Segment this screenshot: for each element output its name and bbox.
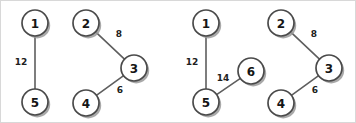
graph-node-right-graph-1: 1 xyxy=(193,10,221,38)
edge-weight-label: 14 xyxy=(217,73,230,83)
edge-weight-label: 6 xyxy=(312,85,318,95)
edge-labels-layer: 1286121486 xyxy=(15,29,318,95)
node-label: 5 xyxy=(31,96,39,110)
node-label: 2 xyxy=(277,17,285,31)
nodes-layer: 15234156234 xyxy=(22,10,344,118)
edge-weight-label: 8 xyxy=(311,29,317,39)
edge-weight-label: 6 xyxy=(117,85,123,95)
graph-figure: 15234156234 1286121486 xyxy=(0,0,356,123)
graph-node-left-graph-3: 3 xyxy=(121,55,149,83)
node-label: 4 xyxy=(82,97,90,111)
graph-node-left-graph-2: 2 xyxy=(73,10,101,38)
edge-weight-label: 8 xyxy=(116,29,122,39)
node-label: 1 xyxy=(31,17,39,31)
graph-canvas: 15234156234 1286121486 xyxy=(1,1,356,123)
graph-node-left-graph-5: 5 xyxy=(22,89,50,117)
graph-node-left-graph-1: 1 xyxy=(22,10,50,38)
node-label: 6 xyxy=(247,65,255,79)
graph-node-right-graph-2: 2 xyxy=(268,10,296,38)
node-label: 4 xyxy=(277,97,285,111)
graph-node-right-graph-3: 3 xyxy=(316,55,344,83)
edge-weight-label: 12 xyxy=(15,57,28,67)
graph-node-right-graph-6: 6 xyxy=(238,58,266,86)
node-label: 1 xyxy=(202,17,210,31)
edges-layer xyxy=(35,31,320,96)
node-label: 2 xyxy=(82,17,90,31)
node-label: 3 xyxy=(325,62,333,76)
graph-node-right-graph-5: 5 xyxy=(193,89,221,117)
node-label: 5 xyxy=(202,96,210,110)
edge-weight-label: 12 xyxy=(186,57,199,67)
node-label: 3 xyxy=(130,62,138,76)
